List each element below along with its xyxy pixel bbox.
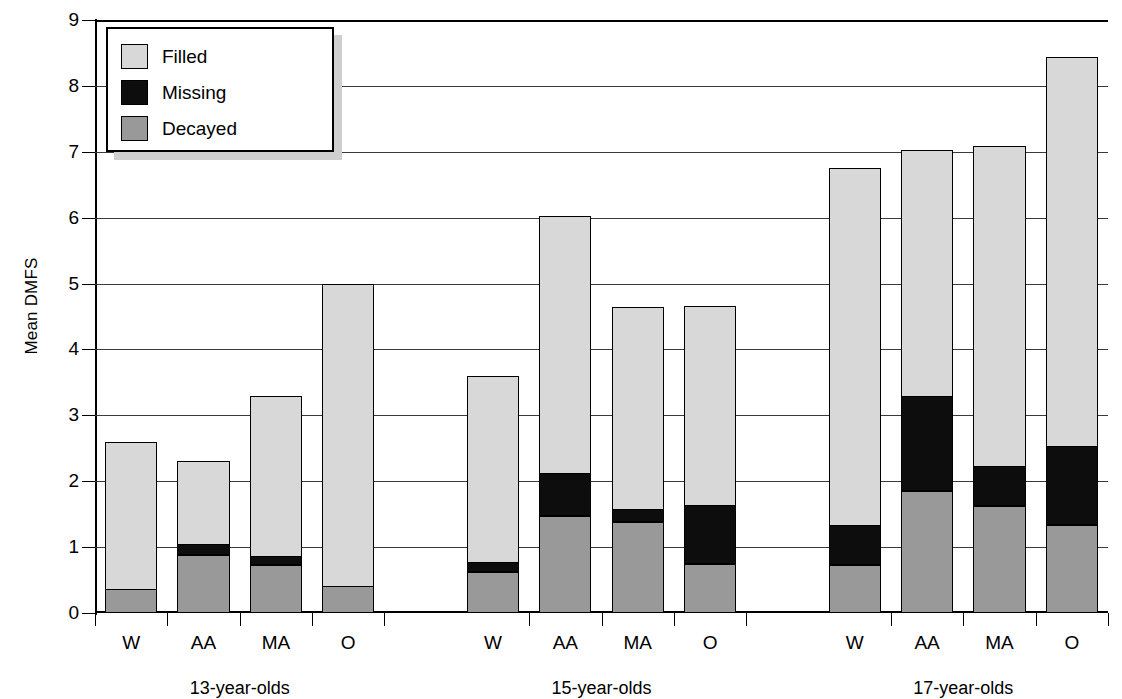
bar-segment-filled bbox=[830, 169, 880, 525]
x-tick bbox=[891, 613, 892, 626]
x-axis-label-15-year-olds-O: O bbox=[670, 632, 750, 654]
bar-15-year-olds-W bbox=[467, 376, 519, 613]
bar-segment-filled bbox=[902, 151, 952, 396]
bar-segment-filled bbox=[468, 377, 518, 562]
x-tick-origin bbox=[95, 613, 96, 626]
gridline-5 bbox=[95, 284, 1108, 285]
x-axis-label-13-year-olds-AA: AA bbox=[164, 632, 244, 654]
bar-segment-filled bbox=[974, 147, 1024, 466]
x-axis-label-17-year-olds-O: O bbox=[1032, 632, 1112, 654]
bar-segment-missing bbox=[902, 396, 952, 491]
bar-segment-decayed bbox=[685, 564, 735, 612]
bar-13-year-olds-AA bbox=[177, 461, 229, 613]
x-axis-label-13-year-olds-MA: MA bbox=[236, 632, 316, 654]
bar-segment-filled bbox=[251, 397, 301, 556]
bar-segment-decayed bbox=[540, 516, 590, 612]
y-tick-1 bbox=[82, 547, 95, 548]
bar-17-year-olds-MA bbox=[973, 146, 1025, 613]
legend-item-missing: Missing bbox=[121, 74, 332, 110]
y-tick-label-1: 1 bbox=[49, 537, 79, 556]
x-tick bbox=[167, 613, 168, 626]
bar-segment-filled bbox=[1047, 58, 1097, 446]
y-tick-7 bbox=[82, 152, 95, 153]
bar-segment-missing bbox=[468, 562, 518, 571]
y-tick-label-7: 7 bbox=[49, 142, 79, 161]
gridline-6 bbox=[95, 218, 1108, 219]
bar-segment-decayed bbox=[830, 565, 880, 612]
bar-segment-missing bbox=[251, 556, 301, 565]
y-tick-label-5: 5 bbox=[49, 274, 79, 293]
group-label-17-year-olds: 17-year-olds bbox=[833, 678, 1093, 699]
y-tick-8 bbox=[82, 86, 95, 87]
gridline-1 bbox=[95, 547, 1108, 548]
bar-segment-decayed bbox=[323, 586, 373, 612]
y-tick-3 bbox=[82, 415, 95, 416]
bar-segment-decayed bbox=[613, 522, 663, 612]
x-tick bbox=[963, 613, 964, 626]
bar-segment-decayed bbox=[468, 572, 518, 613]
x-tick bbox=[1036, 613, 1037, 626]
x-axis-label-17-year-olds-W: W bbox=[815, 632, 895, 654]
x-axis-label-17-year-olds-MA: MA bbox=[959, 632, 1039, 654]
bar-15-year-olds-AA bbox=[539, 216, 591, 613]
legend-label-decayed: Decayed bbox=[162, 119, 237, 138]
group-label-13-year-olds: 13-year-olds bbox=[110, 678, 370, 699]
y-tick-label-8: 8 bbox=[49, 76, 79, 95]
legend-label-missing: Missing bbox=[162, 83, 226, 102]
bar-17-year-olds-AA bbox=[901, 150, 953, 613]
bar-17-year-olds-O bbox=[1046, 57, 1098, 613]
x-tick bbox=[384, 613, 385, 626]
bar-segment-missing bbox=[613, 509, 663, 523]
y-tick-0 bbox=[82, 613, 95, 614]
y-tick-label-3: 3 bbox=[49, 405, 79, 424]
group-label-15-year-olds: 15-year-olds bbox=[472, 678, 732, 699]
gridline-2 bbox=[95, 481, 1108, 482]
y-tick-5 bbox=[82, 284, 95, 285]
y-axis-title: Mean DMFS bbox=[22, 211, 42, 401]
bar-segment-missing bbox=[830, 525, 880, 565]
y-tick-6 bbox=[82, 218, 95, 219]
bar-segment-decayed bbox=[974, 506, 1024, 612]
gridline-3 bbox=[95, 415, 1108, 416]
bar-segment-filled bbox=[613, 308, 663, 508]
bar-15-year-olds-MA bbox=[612, 307, 664, 613]
y-tick-label-4: 4 bbox=[49, 339, 79, 358]
legend-swatch-filled bbox=[121, 44, 148, 69]
bar-segment-filled bbox=[106, 443, 156, 590]
y-tick-label-0: 0 bbox=[49, 603, 79, 622]
bar-segment-missing bbox=[540, 473, 590, 516]
bar-15-year-olds-O bbox=[684, 306, 736, 613]
x-tick bbox=[746, 613, 747, 626]
x-axis-label-13-year-olds-O: O bbox=[308, 632, 388, 654]
bar-segment-filled bbox=[685, 307, 735, 505]
x-axis-label-13-year-olds-W: W bbox=[91, 632, 171, 654]
bar-segment-missing bbox=[685, 505, 735, 564]
x-axis-label-15-year-olds-MA: MA bbox=[598, 632, 678, 654]
x-axis-label-15-year-olds-AA: AA bbox=[525, 632, 605, 654]
legend-item-filled: Filled bbox=[121, 38, 332, 74]
y-tick-label-2: 2 bbox=[49, 471, 79, 490]
bar-17-year-olds-W bbox=[829, 168, 881, 613]
legend-swatch-missing bbox=[121, 80, 148, 105]
legend-item-decayed: Decayed bbox=[121, 110, 332, 146]
x-tick bbox=[674, 613, 675, 626]
bar-segment-decayed bbox=[1047, 525, 1097, 612]
y-tick-label-6: 6 bbox=[49, 208, 79, 227]
x-tick bbox=[529, 613, 530, 626]
bar-segment-filled bbox=[178, 462, 228, 543]
bar-13-year-olds-O bbox=[322, 284, 374, 613]
gridline-9 bbox=[95, 20, 1108, 22]
y-tick-9 bbox=[82, 20, 95, 21]
bar-segment-decayed bbox=[178, 555, 228, 612]
x-tick bbox=[602, 613, 603, 626]
bar-13-year-olds-W bbox=[105, 442, 157, 613]
legend-label-filled: Filled bbox=[162, 47, 207, 66]
bar-13-year-olds-MA bbox=[250, 396, 302, 613]
chart-legend: Filled Missing Decayed bbox=[106, 27, 334, 152]
bar-segment-decayed bbox=[106, 589, 156, 612]
gridline-4 bbox=[95, 349, 1108, 350]
bar-segment-decayed bbox=[251, 565, 301, 612]
bar-segment-filled bbox=[323, 285, 373, 586]
bar-segment-missing bbox=[974, 466, 1024, 507]
